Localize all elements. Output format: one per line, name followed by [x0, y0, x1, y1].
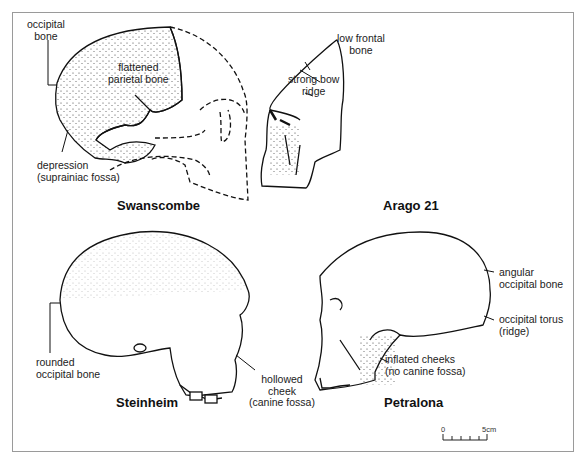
label-hollowed-cheek: hollowed cheek (canine fossa): [249, 374, 315, 409]
label-rounded-occipital: rounded occipital bone: [36, 357, 100, 380]
scale-end-label: 5cm: [482, 425, 496, 434]
title-swanscombe: Swanscombe: [117, 198, 200, 213]
label-inflated-cheeks: inflated cheeks (no canine fossa): [385, 354, 466, 377]
title-steinheim: Steinheim: [116, 395, 178, 410]
title-arago-21: Arago 21: [383, 198, 439, 213]
label-flattened-parietal: flattened parietal bone: [108, 62, 169, 85]
label-suprainiac-fossa: depression (suprainiac fossa): [37, 160, 120, 183]
label-angular-occipital: angular occipital bone: [499, 267, 563, 290]
scale-bar: [443, 434, 487, 440]
label-strong-bow-ridge: strong bow ridge: [288, 74, 339, 97]
label-occipital-bone: occipital bone: [27, 19, 65, 42]
label-occipital-torus: occipital torus (ridge): [499, 314, 563, 337]
label-low-frontal-bone: low frontal bone: [337, 33, 385, 56]
scale-start-label: 0: [441, 425, 445, 434]
arago21-skull: [261, 40, 343, 188]
title-petralona: Petralona: [384, 395, 443, 410]
